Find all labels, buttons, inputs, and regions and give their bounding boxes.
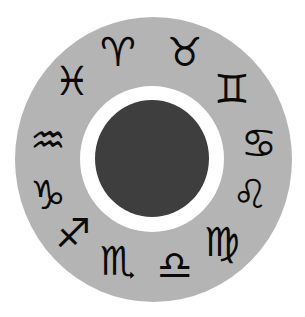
zodiac-wheel: ♈ ♉ ♊ ♋ ♌ ♍ ♎ ♏ ♐ ♑ ♒ ♓: [0, 0, 305, 317]
scorpio-icon: ♏: [96, 237, 140, 285]
cancer-icon: ♋: [237, 119, 281, 167]
pisces-icon: ♓: [50, 57, 94, 105]
leo-icon: ♌: [228, 170, 272, 218]
aries-icon: ♈: [96, 28, 140, 76]
dark-center-disc: [95, 100, 209, 217]
aquarius-icon: ♒: [26, 116, 70, 164]
gemini-icon: ♊: [210, 65, 254, 113]
libra-icon: ♎: [153, 241, 197, 289]
virgo-icon: ♍: [200, 218, 244, 266]
capricorn-icon: ♑: [26, 171, 70, 219]
taurus-icon: ♉: [163, 28, 207, 76]
